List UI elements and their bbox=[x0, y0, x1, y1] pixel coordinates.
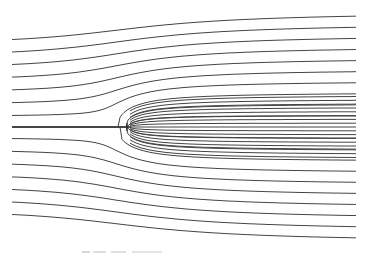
streamline bbox=[12, 127, 356, 138]
streamline bbox=[12, 215, 356, 238]
streamline bbox=[12, 61, 356, 90]
figure-caption bbox=[82, 251, 162, 253]
streamline bbox=[12, 16, 356, 39]
streamlines-group bbox=[12, 16, 356, 238]
streamline bbox=[12, 164, 356, 193]
streamline bbox=[130, 123, 356, 126]
streamline bbox=[12, 116, 356, 127]
streamline bbox=[12, 50, 356, 78]
streamline bbox=[12, 38, 356, 64]
streamline-diagram bbox=[0, 0, 367, 259]
streamline bbox=[130, 128, 356, 131]
streamline bbox=[12, 190, 356, 216]
streamline bbox=[12, 177, 356, 205]
